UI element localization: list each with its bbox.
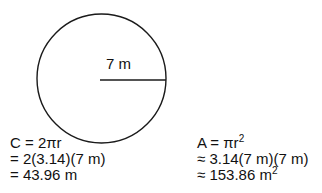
circumference-line-2: = 2(3.14)(7 m): [10, 151, 105, 167]
circle-outline: [37, 14, 166, 143]
area-line-2-text: ≈ 3.14(7 m)(7 m): [197, 150, 309, 167]
area-line-1-exponent: 2: [239, 133, 245, 144]
circumference-formula: C = 2πr = 2(3.14)(7 m) = 43.96 m: [10, 135, 105, 183]
area-line-1-text: A = πr: [197, 134, 239, 151]
area-line-3-text: ≈ 153.86 m: [197, 166, 272, 183]
radius-label: 7 m: [106, 55, 131, 73]
area-line-3: ≈ 153.86 m2: [197, 167, 309, 183]
area-line-3-exponent: 2: [272, 165, 278, 176]
area-line-1: A = πr2: [197, 135, 309, 151]
circumference-line-3: = 43.96 m: [10, 167, 105, 183]
area-line-2: ≈ 3.14(7 m)(7 m): [197, 151, 309, 167]
circumference-line-1: C = 2πr: [10, 135, 105, 151]
area-formula: A = πr2 ≈ 3.14(7 m)(7 m) ≈ 153.86 m2: [197, 135, 309, 183]
